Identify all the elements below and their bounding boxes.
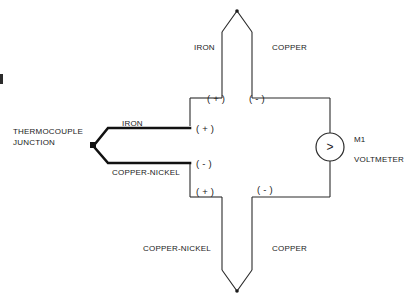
voltmeter-name-label: VOLTMETER xyxy=(354,154,404,165)
copper-nickel-lead-label: COPPER-NICKEL xyxy=(112,167,180,178)
polarity-top-right: ( - ) xyxy=(249,93,265,104)
iron-lead-label: IRON xyxy=(122,118,143,129)
polarity-bottom-left: ( + ) xyxy=(196,186,214,197)
bottom-left-material-label: COPPER-NICKEL xyxy=(143,243,211,254)
top-right-material-label: COPPER xyxy=(272,42,307,53)
upper-apex-junction-dot xyxy=(235,9,239,13)
voltmeter-id-label: M1 xyxy=(354,134,366,145)
lower-loop-conductors xyxy=(190,197,330,291)
polarity-top-left: ( + ) xyxy=(207,93,225,104)
voltmeter-symbol-glyph: > xyxy=(326,140,333,154)
thermocouple-circuit-diagram: > THERMOCOUPLE JUNCTION IRON COPPER-NICK… xyxy=(0,0,417,303)
lower-apex-junction-dot xyxy=(235,289,239,293)
lower-apex-vee xyxy=(222,270,252,291)
iron-lead-wire xyxy=(95,128,190,144)
edge-artifact-mark xyxy=(0,74,3,84)
thermocouple-lead-wires xyxy=(95,128,190,163)
polarity-mid-iron: ( + ) xyxy=(196,123,214,134)
polarity-mid-copper-nickel: ( - ) xyxy=(196,158,212,169)
thermocouple-junction-label-line2: JUNCTION xyxy=(13,137,83,148)
polarity-bottom-right: ( - ) xyxy=(257,184,273,195)
upper-apex-peak xyxy=(222,11,252,32)
bottom-right-material-label: COPPER xyxy=(272,243,307,254)
copper-nickel-lead-wire xyxy=(95,148,190,163)
thermocouple-junction-dot xyxy=(90,142,96,148)
thermocouple-junction-label-line1: THERMOCOUPLE xyxy=(13,126,83,137)
thermocouple-junction-label: THERMOCOUPLE JUNCTION xyxy=(13,126,83,148)
top-left-material-label: IRON xyxy=(194,42,215,53)
upper-loop-conductors xyxy=(190,11,330,98)
